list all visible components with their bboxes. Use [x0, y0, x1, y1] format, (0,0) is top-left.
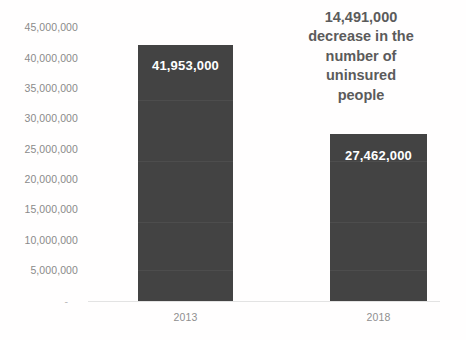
y-axis-tick-label: 20,000,000 [24, 173, 78, 185]
y-axis-tick-label: 25,000,000 [24, 143, 78, 155]
x-axis-label-2013: 2013 [138, 311, 233, 323]
callout-line: decrease in the [268, 27, 454, 46]
bar-chart: 45,000,000 40,000,000 35,000,000 30,000,… [0, 0, 466, 340]
y-axis-tick-label: 30,000,000 [24, 112, 78, 124]
bar-2013[interactable]: 41,953,000 [138, 45, 233, 301]
y-axis-tick-label: 40,000,000 [24, 52, 78, 64]
y-axis-tick-label: 45,000,000 [24, 21, 78, 33]
callout-line: people [268, 86, 454, 105]
bar-gridline [138, 161, 233, 162]
callout-line: number of [268, 47, 454, 66]
bar-value-label-2013: 41,953,000 [138, 58, 233, 73]
bar-gridline [138, 222, 233, 223]
decrease-callout-annotation: 14,491,000 decrease in the number of uni… [268, 8, 454, 105]
bar-2018[interactable]: 27,462,000 [330, 134, 427, 301]
bar-gridline [330, 222, 427, 223]
y-axis-zero-tick-label: - [65, 295, 69, 307]
y-axis: 45,000,000 40,000,000 35,000,000 30,000,… [0, 0, 86, 340]
y-axis-tick-label: 15,000,000 [24, 203, 78, 215]
callout-line: 14,491,000 [268, 8, 454, 27]
y-axis-tick-label: 10,000,000 [24, 234, 78, 246]
bar-gridline [330, 270, 427, 271]
bar-value-label-2018: 27,462,000 [330, 148, 427, 163]
y-axis-tick-label: 5,000,000 [30, 264, 78, 276]
bar-gridline [138, 270, 233, 271]
callout-line: uninsured [268, 66, 454, 85]
y-axis-tick-label: 35,000,000 [24, 82, 78, 94]
x-axis-label-2018: 2018 [330, 311, 427, 323]
x-axis-baseline [88, 301, 440, 302]
bar-gridline [138, 100, 233, 101]
